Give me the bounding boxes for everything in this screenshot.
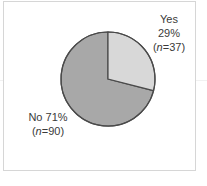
pie-label-no-count: (n=90) xyxy=(12,124,84,138)
pie-label-no-text: No 71% xyxy=(12,110,84,124)
pie-chart: Yes 29% (n=37) No 71% (n=90) xyxy=(4,2,196,171)
pie-label-yes-name: Yes xyxy=(137,12,196,26)
pie-label-no: No 71% (n=90) xyxy=(12,110,84,138)
figure-frame: Yes 29% (n=37) No 71% (n=90) xyxy=(3,1,196,171)
pie-label-yes-count: (n=37) xyxy=(137,40,196,54)
count-value: =90) xyxy=(42,125,64,137)
count-value: =37) xyxy=(163,41,185,53)
pie-label-yes-percent: 29% xyxy=(137,26,196,40)
pie-label-yes: Yes 29% (n=37) xyxy=(137,12,196,54)
